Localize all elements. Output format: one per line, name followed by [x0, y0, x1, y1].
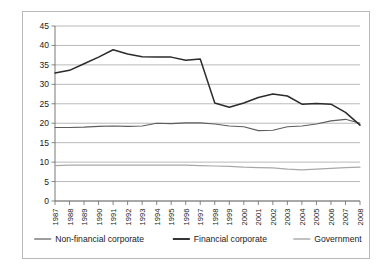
y-tick-label: 20: [40, 118, 50, 128]
x-tick-label: 1988: [66, 209, 75, 226]
series-line-1: [55, 50, 360, 125]
y-tick-label: 0: [44, 196, 49, 206]
x-tick-label: 1997: [196, 209, 205, 226]
x-tick-label: 2007: [341, 209, 350, 226]
x-tick-label: 2003: [283, 209, 292, 226]
legend-label-0: Non-financial corporate: [55, 234, 144, 244]
x-tick-label: 2002: [269, 209, 278, 226]
x-tick-label: 2005: [312, 209, 321, 226]
x-tick-label: 1994: [153, 209, 162, 226]
x-tick-label: 2008: [356, 209, 365, 226]
x-axis: 1987198819891990199119921993199419951996…: [51, 201, 365, 225]
y-tick-label: 35: [40, 60, 50, 70]
x-tick-label: 1995: [167, 209, 176, 226]
y-tick-label: 25: [40, 99, 50, 109]
line-chart-svg: 051015202530354045 198719881989199019911…: [23, 12, 371, 260]
chart-container: 051015202530354045 198719881989199019911…: [22, 11, 370, 259]
series-line-0: [55, 119, 360, 130]
x-tick-label: 1990: [95, 209, 104, 226]
legend-label-2: Government: [314, 234, 362, 244]
x-tick-label: 2004: [298, 209, 307, 226]
series-line-2: [55, 165, 360, 170]
y-tick-label: 10: [40, 157, 50, 167]
y-axis: 051015202530354045: [40, 21, 55, 206]
series-lines: [55, 50, 360, 170]
x-tick-label: 2001: [254, 209, 263, 226]
x-tick-label: 1987: [51, 209, 60, 226]
x-tick-label: 2000: [240, 209, 249, 226]
y-tick-label: 45: [40, 21, 50, 31]
y-tick-label: 5: [44, 177, 49, 187]
y-tick-label: 40: [40, 40, 50, 50]
y-tick-label: 15: [40, 138, 50, 148]
x-tick-label: 1996: [182, 209, 191, 226]
x-tick-label: 1991: [109, 209, 118, 226]
plot-area: 051015202530354045 198719881989199019911…: [23, 12, 371, 260]
chart-legend: Non-financial corporateFinancial corpora…: [34, 234, 362, 244]
x-tick-label: 1993: [138, 209, 147, 226]
x-tick-label: 1989: [80, 209, 89, 226]
x-tick-label: 2006: [327, 209, 336, 226]
legend-label-1: Financial corporate: [194, 234, 267, 244]
x-tick-label: 1999: [225, 209, 234, 226]
gridlines: [55, 26, 360, 201]
x-tick-label: 1998: [211, 209, 220, 226]
x-tick-label: 1992: [124, 209, 133, 226]
y-tick-label: 30: [40, 79, 50, 89]
